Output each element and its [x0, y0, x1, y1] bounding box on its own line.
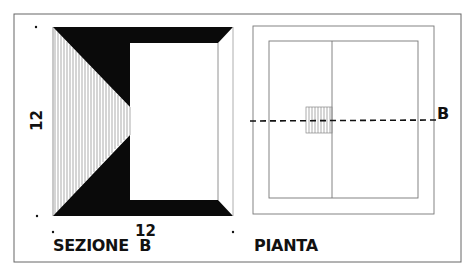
section-title: SEZIONE B: [53, 238, 151, 254]
plan-drawing: [250, 26, 436, 214]
plan-title: PIANTA: [254, 238, 318, 254]
reference-dot: [232, 231, 234, 233]
reference-dot: [52, 231, 54, 233]
section-floor-solid: [53, 135, 233, 216]
section-b-drawing: [35, 26, 234, 233]
reference-dot: [35, 26, 37, 28]
reference-dot: [36, 215, 38, 217]
section-height-dimension: 12: [30, 110, 45, 131]
section-roof-solid: [53, 27, 233, 107]
section-cut-line: [250, 120, 436, 121]
plan-stairs: [306, 107, 332, 133]
section-marker-label: B: [437, 106, 449, 122]
